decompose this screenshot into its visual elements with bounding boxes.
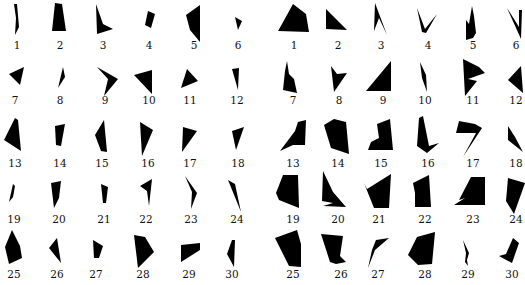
shape-left-5 — [186, 5, 200, 42]
shape-label: 12 — [222, 94, 252, 106]
shape-right-14 — [324, 119, 349, 154]
shape-label: 29 — [174, 268, 204, 280]
shape-label: 27 — [363, 268, 393, 280]
shape-label: 22 — [131, 213, 161, 225]
shape-label: 19 — [278, 213, 308, 225]
shape-left-3 — [96, 4, 113, 34]
shape-label: 4 — [413, 39, 443, 51]
shape-right-27 — [368, 238, 389, 268]
shape-label: 14 — [323, 157, 353, 169]
shape-left-6 — [235, 17, 242, 30]
shape-label: 5 — [179, 39, 209, 51]
shape-label: 28 — [128, 268, 158, 280]
shape-label: 17 — [458, 157, 488, 169]
shape-label: 27 — [81, 268, 111, 280]
shape-left-16 — [140, 122, 153, 156]
shape-label: 5 — [458, 39, 488, 51]
shape-left-20 — [51, 181, 61, 208]
shape-left-8 — [58, 67, 65, 88]
shape-label: 15 — [366, 157, 396, 169]
shape-right-30 — [499, 238, 519, 263]
shape-label: 24 — [222, 213, 252, 225]
shape-label: 25 — [0, 268, 29, 280]
shape-label: 24 — [501, 213, 525, 225]
shape-left-10 — [134, 70, 152, 94]
shape-label: 11 — [458, 94, 488, 106]
shape-right-16 — [417, 116, 439, 153]
shape-label: 23 — [458, 213, 488, 225]
shape-left-11 — [181, 69, 198, 88]
shape-left-24 — [228, 180, 241, 212]
shape-label: 2 — [323, 39, 353, 51]
shape-label: 12 — [501, 94, 525, 106]
shape-left-4 — [145, 11, 155, 28]
panel-right: 1234567891011121314151617181920212223242… — [263, 0, 525, 285]
shape-label: 28 — [410, 268, 440, 280]
shape-label: 30 — [497, 268, 525, 280]
shape-right-23 — [454, 177, 485, 205]
shape-label: 16 — [413, 157, 443, 169]
shape-label: 6 — [223, 39, 253, 51]
shape-left-15 — [95, 120, 107, 152]
shape-label: 8 — [324, 94, 354, 106]
shape-right-28 — [408, 232, 435, 265]
shape-label: 19 — [0, 213, 29, 225]
shape-right-22 — [413, 175, 431, 207]
shape-label: 3 — [88, 39, 118, 51]
panel-left: 1234567891011121314151617181920212223242… — [0, 0, 262, 285]
shape-label: 9 — [368, 94, 398, 106]
shape-label: 10 — [134, 94, 164, 106]
shape-right-17 — [456, 121, 482, 157]
shape-label: 1 — [2, 39, 32, 51]
shape-right-10 — [420, 62, 427, 92]
shape-right-4 — [417, 8, 437, 33]
shape-right-6 — [507, 8, 522, 39]
shape-right-19 — [276, 175, 299, 208]
shape-label: 4 — [134, 39, 164, 51]
shape-left-28 — [134, 235, 154, 268]
shape-label: 22 — [410, 213, 440, 225]
shape-label: 9 — [90, 94, 120, 106]
shape-right-15 — [368, 119, 393, 150]
shape-right-18 — [508, 126, 523, 152]
shape-right-5 — [466, 6, 476, 40]
shape-left-27 — [93, 240, 103, 258]
shape-left-12 — [232, 68, 239, 90]
shape-right-11 — [463, 59, 485, 96]
shape-label: 29 — [453, 268, 483, 280]
shape-left-22 — [140, 179, 152, 206]
shape-label: 13 — [278, 157, 308, 169]
shape-label: 14 — [45, 157, 75, 169]
shape-label: 17 — [175, 157, 205, 169]
shape-label: 21 — [364, 213, 394, 225]
shape-left-17 — [182, 127, 197, 152]
shape-right-1 — [278, 4, 309, 32]
shape-label: 15 — [87, 157, 117, 169]
shape-left-19 — [9, 184, 15, 202]
shape-right-3 — [374, 3, 387, 35]
shape-left-2 — [52, 3, 66, 31]
shape-left-21 — [101, 184, 108, 203]
shape-right-20 — [322, 171, 346, 207]
shape-right-24 — [506, 178, 525, 214]
shape-label: 18 — [223, 157, 253, 169]
shape-label: 8 — [45, 94, 75, 106]
shape-label: 13 — [0, 157, 30, 169]
shape-right-2 — [326, 9, 347, 30]
shape-right-29 — [463, 240, 469, 266]
shape-right-8 — [331, 66, 347, 92]
shape-right-7 — [283, 61, 297, 93]
shape-label: 30 — [217, 268, 247, 280]
shape-label: 2 — [45, 39, 75, 51]
shape-left-9 — [97, 67, 118, 96]
shape-right-21 — [364, 174, 391, 208]
shape-label: 7 — [278, 94, 308, 106]
shape-label: 6 — [501, 39, 525, 51]
shape-right-25 — [275, 230, 301, 267]
shape-label: 11 — [175, 94, 205, 106]
shape-left-29 — [181, 243, 200, 262]
shape-label: 20 — [44, 213, 74, 225]
shape-label: 18 — [501, 157, 525, 169]
shape-label: 26 — [326, 268, 356, 280]
shape-left-26 — [49, 238, 61, 263]
